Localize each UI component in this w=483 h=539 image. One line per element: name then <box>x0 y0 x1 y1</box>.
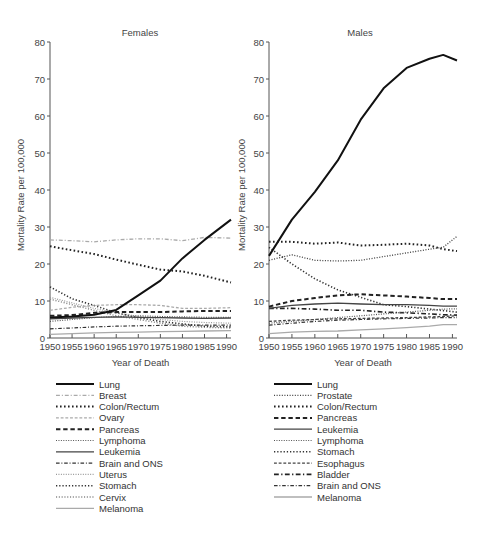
x-tick-label: 1985 <box>419 341 440 352</box>
series-line-lymphoma <box>269 309 457 323</box>
x-tick-label: 1960 <box>304 341 325 352</box>
y-tick-label: 30 <box>253 222 264 233</box>
legend-label: Brain and ONS <box>99 458 163 469</box>
legend: LungProstateColon/RectumPancreasLeukemia… <box>274 379 381 503</box>
x-tick-label: 1970 <box>350 341 371 352</box>
x-tick-label: 1955 <box>62 341 83 352</box>
series-line-cervix <box>50 299 231 328</box>
series-group <box>269 55 457 334</box>
y-tick-label: 60 <box>253 111 264 122</box>
legend-label: Cervix <box>99 492 126 503</box>
legend-label: Leukemia <box>99 446 141 457</box>
series-line-lung <box>269 55 457 256</box>
series-line-prostate <box>269 236 457 261</box>
x-tick-label: 1965 <box>327 341 348 352</box>
y-tick-label: 20 <box>253 259 264 270</box>
legend-label: Pancreas <box>317 412 357 423</box>
series-group <box>50 220 231 335</box>
x-axis-label: Year of Death <box>112 357 170 368</box>
legend-label: Brain and ONS <box>317 480 381 491</box>
legend-label: Lung <box>317 379 338 390</box>
legend-label: Esophagus <box>317 458 365 469</box>
x-tick-label: 1980 <box>172 341 193 352</box>
series-line-colon-rectum <box>50 246 231 282</box>
series-line-lung <box>50 220 231 318</box>
y-tick-label: 10 <box>34 296 45 307</box>
legend-label: Melanoma <box>99 503 144 514</box>
y-tick-label: 20 <box>34 259 45 270</box>
x-tick-label: 1975 <box>150 341 171 352</box>
legend-label: Lung <box>99 379 120 390</box>
series-line-melanoma <box>269 325 457 334</box>
females-chart-panel: Females010203040506070801950195519601965… <box>15 27 237 514</box>
legend-label: Lymphoma <box>99 435 146 446</box>
legend: LungBreastColon/RectumOvaryPancreasLymph… <box>56 379 163 514</box>
legend-label: Melanoma <box>317 492 362 503</box>
y-tick-label: 70 <box>253 74 264 85</box>
x-tick-label: 1990 <box>442 341 463 352</box>
legend-label: Stomach <box>99 480 137 491</box>
y-tick-label: 10 <box>253 296 264 307</box>
legend-label: Prostate <box>317 390 352 401</box>
x-tick-label: 1960 <box>84 341 105 352</box>
series-line-leukemia <box>269 303 457 308</box>
legend-label: Lymphoma <box>317 435 364 446</box>
series-line-esophagus <box>269 316 457 322</box>
males-chart-panel: Males01020304050607080195019551960196519… <box>236 27 463 503</box>
mortality-charts: Females010203040506070801950195519601965… <box>0 0 483 539</box>
y-tick-label: 70 <box>34 74 45 85</box>
series-line-ovary <box>50 305 231 311</box>
legend-label: Leukemia <box>317 424 359 435</box>
x-tick-label: 1990 <box>216 341 237 352</box>
x-tick-label: 1980 <box>396 341 417 352</box>
legend-label: Stomach <box>317 446 355 457</box>
y-tick-label: 30 <box>34 222 45 233</box>
legend-label: Uterus <box>99 469 127 480</box>
legend-label: Colon/Rectum <box>99 401 159 412</box>
y-tick-label: 80 <box>253 37 264 48</box>
legend-label: Breast <box>99 390 127 401</box>
x-tick-label: 1950 <box>258 341 279 352</box>
y-tick-label: 40 <box>34 185 45 196</box>
x-tick-label: 1975 <box>373 341 394 352</box>
y-axis-label: Mortality Rate per 100,000 <box>236 139 247 251</box>
series-line-bladder <box>269 308 457 315</box>
y-tick-label: 80 <box>34 37 45 48</box>
series-line-melanoma <box>50 331 231 335</box>
legend-label: Ovary <box>99 412 125 423</box>
x-axis-label: Year of Death <box>334 357 392 368</box>
x-tick-label: 1955 <box>281 341 302 352</box>
legend-label: Colon/Rectum <box>317 401 377 412</box>
series-line-pancreas <box>50 311 231 316</box>
y-tick-label: 50 <box>253 148 264 159</box>
series-line-stomach <box>269 247 457 312</box>
y-tick-label: 50 <box>34 148 45 159</box>
y-axis-label: Mortality Rate per 100,000 <box>15 139 26 251</box>
x-tick-label: 1985 <box>194 341 215 352</box>
chart-title: Males <box>347 27 373 38</box>
x-tick-label: 1970 <box>128 341 149 352</box>
y-tick-label: 40 <box>253 185 264 196</box>
legend-label: Bladder <box>317 469 350 480</box>
x-tick-label: 1965 <box>106 341 127 352</box>
y-tick-label: 60 <box>34 111 45 122</box>
chart-title: Females <box>122 27 159 38</box>
x-tick-label: 1950 <box>39 341 60 352</box>
legend-label: Pancreas <box>99 424 139 435</box>
